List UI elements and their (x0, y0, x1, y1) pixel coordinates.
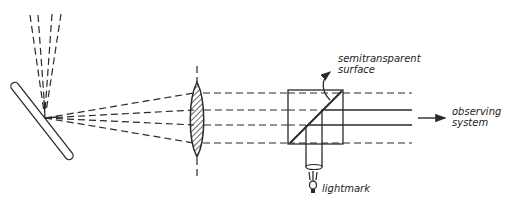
tilted-plate (9, 81, 74, 162)
optical-diagram: semitransparent surface lightmark observ… (0, 0, 520, 207)
lamp-icon (309, 171, 317, 193)
lightmark-label: lightmark (322, 183, 371, 194)
beam-splitter-cube (288, 90, 343, 170)
incident-rays (30, 14, 61, 118)
diverging-ray (45, 93, 194, 118)
collimating-lens (190, 66, 204, 176)
diverging-ray (45, 118, 194, 143)
diverging-rays (45, 93, 194, 143)
light-tube-end (306, 165, 322, 170)
semitransparent-label-1: semitransparent (338, 53, 422, 64)
lens-body (190, 82, 204, 157)
observing-label-1: observing (452, 106, 501, 117)
collimated-beams (203, 93, 412, 143)
semitransparent-surface (290, 91, 342, 143)
observing-label-2: system (452, 117, 488, 128)
semitransparent-label-2: surface (338, 64, 375, 75)
semitransparent-pointer (323, 72, 330, 100)
incident-ray (45, 14, 52, 112)
focus-ray (44, 100, 45, 118)
